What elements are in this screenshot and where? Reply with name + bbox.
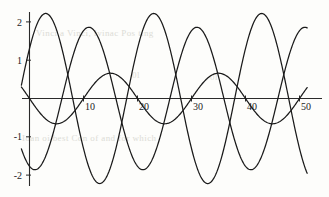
y-tick-label-m1: -1 [14, 131, 22, 142]
y-tick-label-2: 2 [17, 17, 22, 28]
x-tick-label-30: 30 [193, 101, 203, 112]
figure-canvas: Vinci a Vinci, Ivinac Pos ting 0l Ioan o… [0, 0, 329, 197]
x-tick-label-10: 10 [85, 101, 95, 112]
y-tick-label-m2: -2 [14, 170, 22, 181]
line-chart: 2 1 -1 -2 10 20 30 40 50 [0, 0, 329, 197]
y-tick-label-1: 1 [17, 55, 22, 66]
x-tick-label-50: 50 [301, 101, 311, 112]
